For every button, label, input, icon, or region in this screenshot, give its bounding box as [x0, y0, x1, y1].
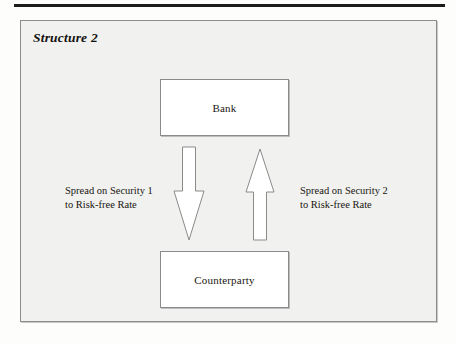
- entity-box-bank: Bank: [160, 79, 289, 136]
- flow-caption-right-line1: Spread on Security 2: [300, 184, 388, 198]
- flow-caption-left-line1: Spread on Security 1: [65, 184, 153, 198]
- figure-title: Structure 2: [33, 30, 98, 46]
- flow-caption-right: Spread on Security 2 to Risk-free Rate: [300, 184, 388, 212]
- arrow-up-shape: [246, 149, 274, 240]
- flow-caption-left: Spread on Security 1 to Risk-free Rate: [65, 184, 153, 212]
- page-canvas: Structure 2 Bank Counterparty Spread on …: [0, 0, 456, 344]
- flow-caption-right-line2: to Risk-free Rate: [300, 198, 388, 212]
- arrow-down-icon: [170, 145, 212, 245]
- page-top-rule: [14, 4, 445, 7]
- arrow-up-icon: [243, 145, 285, 245]
- entity-label-bank: Bank: [212, 102, 236, 114]
- flow-caption-left-line2: to Risk-free Rate: [65, 198, 153, 212]
- arrow-down-shape: [174, 147, 204, 240]
- entity-box-counterparty: Counterparty: [160, 251, 289, 308]
- entity-label-counterparty: Counterparty: [194, 274, 254, 286]
